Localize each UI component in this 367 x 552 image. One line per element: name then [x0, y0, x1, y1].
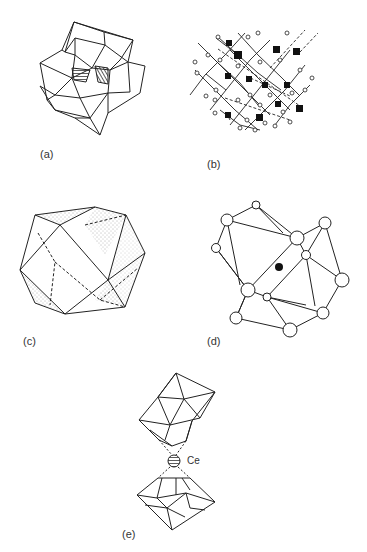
panel-e-ce-coordination [137, 373, 215, 530]
panel-b-lattice [190, 30, 318, 132]
panel-d-cage [212, 201, 350, 337]
panel-a-cluster [40, 22, 145, 135]
panel-label-d: (d) [207, 335, 220, 347]
panel-label-e: (e) [122, 528, 135, 540]
panel-c-cuboctahedron [20, 207, 145, 314]
ce-atom-label: Ce [187, 455, 200, 466]
figure-canvas [0, 0, 367, 552]
panel-label-a: (a) [40, 148, 53, 160]
panel-label-b: (b) [207, 158, 220, 170]
panel-label-c: (c) [23, 335, 36, 347]
central-atom [275, 263, 283, 271]
